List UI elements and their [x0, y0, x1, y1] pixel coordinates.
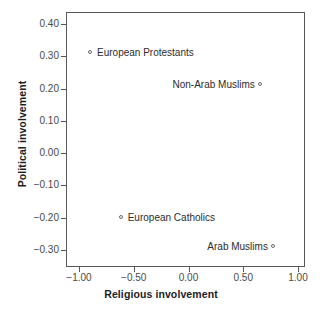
x-axis-title: Religious involvement: [0, 288, 322, 300]
y-axis-tick: [61, 185, 66, 186]
scatter-plot-figure: 0.400.300.200.100.00−0.10−0.20−0.30 −1.0…: [0, 0, 322, 312]
y-axis-tick-label: 0.00: [40, 148, 59, 158]
y-axis-tick-label: 0.30: [40, 51, 59, 61]
x-axis-tick-label: 0.50: [221, 273, 265, 283]
y-axis-tick-label: 0.10: [40, 116, 59, 126]
y-axis-tick-label: 0.40: [40, 19, 59, 29]
y-axis-tick-label: −0.10: [34, 180, 59, 190]
y-axis-tick: [61, 218, 66, 219]
y-axis-tick: [61, 24, 66, 25]
y-axis-tick: [61, 121, 66, 122]
data-point-label: Arab Muslims: [0, 242, 268, 252]
data-point-marker[interactable]: [271, 244, 275, 248]
y-axis-tick-label: −0.20: [34, 213, 59, 223]
x-axis-tick-label: 1.00: [276, 273, 320, 283]
data-point-marker[interactable]: [119, 215, 123, 219]
data-point-label: Non-Arab Muslims: [0, 80, 255, 90]
x-axis-tick-label: −0.50: [112, 273, 156, 283]
x-axis-tick-label: 0.00: [167, 273, 211, 283]
x-axis-tick-label: −1.00: [57, 273, 101, 283]
y-axis-title: Political involvement: [16, 64, 28, 204]
data-point-label: European Protestants: [97, 48, 194, 58]
y-axis-tick: [61, 56, 66, 57]
data-point-label: European Catholics: [128, 213, 215, 223]
y-axis-tick: [61, 153, 66, 154]
